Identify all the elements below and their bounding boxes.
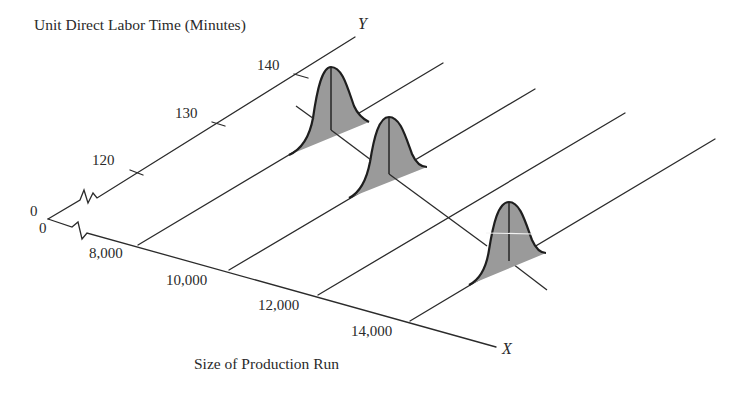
origin-label-y: 0 [30, 203, 38, 220]
x-axis-line [48, 219, 496, 347]
x-tick-label-8000: 8,000 [89, 245, 123, 262]
y-tick-label-140: 140 [257, 57, 280, 74]
x-tick-label-10000: 10,000 [166, 272, 207, 289]
origin-label-x: 0 [39, 220, 47, 237]
y-axis-line [48, 37, 355, 219]
y-axis-title: Unit Direct Labor Time (Minutes) [34, 16, 246, 34]
x-axis-letter: X [502, 340, 512, 358]
x-line-12000 [318, 113, 625, 295]
distribution-curve-8000 [289, 67, 369, 155]
x-axis-title: Size of Production Run [194, 355, 339, 373]
distribution-curve-14000 [469, 202, 546, 285]
x-tick-label-14000: 14,000 [351, 323, 392, 340]
y-tick-label-130: 130 [175, 105, 198, 122]
distribution-curve-10000 [349, 117, 427, 198]
x-line-14000 [410, 139, 715, 321]
labor-time-diagram: Unit Direct Labor Time (Minutes) Y 140 1… [0, 0, 736, 395]
y-tick-label-120: 120 [92, 152, 115, 169]
y-tick-140 [294, 74, 308, 78]
y-axis-letter: Y [358, 15, 367, 33]
x-tick-label-12000: 12,000 [258, 297, 299, 314]
